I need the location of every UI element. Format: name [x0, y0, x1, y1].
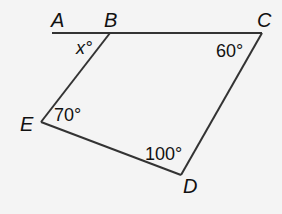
angle-label-c: 60°: [216, 41, 243, 61]
angle-label-b: x°: [75, 38, 92, 58]
point-label-d: D: [183, 175, 197, 197]
angle-label-d: 100°: [145, 144, 182, 164]
angle-label-e: 70°: [54, 105, 81, 125]
point-label-e: E: [20, 113, 34, 135]
geometry-diagram: A B C E D x° 60° 70° 100°: [0, 0, 282, 214]
point-label-c: C: [257, 9, 272, 31]
point-label-a: A: [50, 9, 64, 31]
point-label-b: B: [104, 9, 117, 31]
